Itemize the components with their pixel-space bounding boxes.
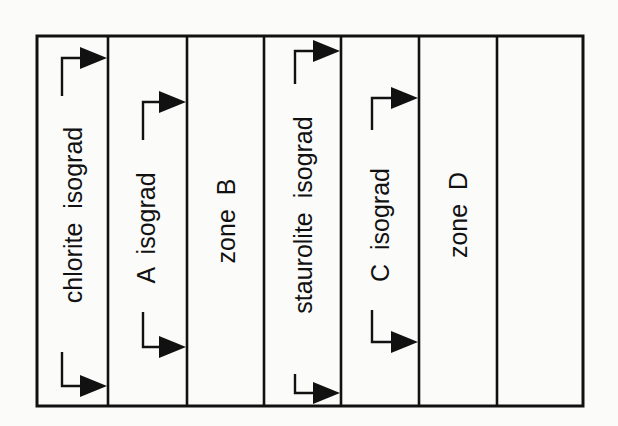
label-zone-b: zone B (214, 179, 239, 264)
col-1-top-bracket-line (62, 58, 82, 96)
col-4-bottom-bracket-arrow-icon (313, 382, 340, 404)
col-5-bottom-bracket-arrow-icon (391, 331, 418, 353)
col-5-bottom-bracket-line (372, 310, 393, 342)
col-4-top-bracket-line (295, 51, 315, 84)
label-a-isograd: A isograd (134, 172, 159, 283)
col-2-bottom-bracket-line (143, 312, 161, 347)
col-1-top-bracket-arrow-icon (80, 47, 107, 69)
col-1-bottom-bracket-line (62, 352, 82, 386)
label-c-isograd: C isograd (368, 168, 393, 282)
col-2-top-bracket-line (143, 102, 161, 140)
col-4-bottom-bracket-line (295, 374, 315, 393)
col-2-bottom-bracket-arrow-icon (159, 336, 186, 358)
col-2-top-bracket-arrow-icon (159, 91, 186, 113)
col-4-top-bracket-arrow-icon (313, 40, 340, 62)
col-1-bottom-bracket-arrow-icon (80, 375, 107, 397)
label-chlorite-isograd: chlorite isograd (61, 127, 86, 303)
col-5-top-bracket-arrow-icon (391, 87, 418, 109)
col-5-top-bracket-line (372, 98, 393, 130)
label-zone-d: zone D (446, 172, 471, 258)
label-staurolite-isograd: staurolite isograd (291, 116, 316, 313)
